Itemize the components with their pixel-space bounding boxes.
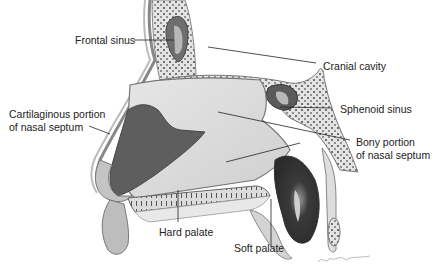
artist-signature — [318, 256, 370, 262]
atlas-tubercle — [328, 218, 340, 246]
label-cranial-cavity: Cranial cavity — [323, 60, 386, 72]
nasal-cavity-diagram: Frontal sinus Cranial cavity Sphenoid si… — [0, 0, 434, 269]
label-bony-septum-2: of nasal septum — [356, 149, 430, 161]
label-bony-septum-1: Bony portion — [356, 136, 415, 148]
label-soft-palate: Soft palate — [234, 242, 284, 254]
label-frontal-sinus: Frontal sinus — [75, 34, 135, 46]
label-hard-palate: Hard palate — [159, 226, 213, 238]
label-cartilaginous-septum-2: of nasal septum — [9, 121, 83, 133]
anatomy-illustration — [0, 0, 434, 269]
label-sphenoid-sinus: Sphenoid sinus — [340, 103, 412, 115]
label-cartilaginous-septum-1: Cartilaginous portion — [9, 108, 105, 120]
upper-lip — [102, 200, 128, 254]
